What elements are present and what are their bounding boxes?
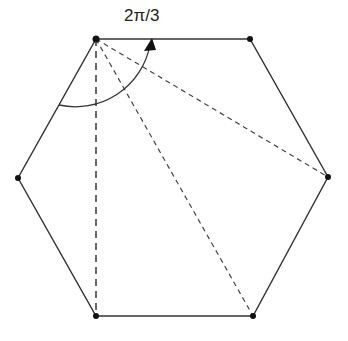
hexagon-diagram: 2π/3 [0, 0, 348, 341]
diagonal-to-right [96, 39, 328, 177]
vertex-dot [93, 313, 99, 319]
vertex-dot [15, 175, 21, 181]
angle-arc [59, 45, 150, 107]
hexagon-figure [0, 0, 348, 341]
vertex-dot [247, 36, 253, 42]
angle-label: 2π/3 [124, 6, 159, 26]
vertex-dot [250, 313, 256, 319]
arrowhead-icon [144, 38, 156, 51]
hexagon-outline [18, 39, 328, 316]
vertex-dot [93, 36, 100, 43]
diagonal-to-bottom-right [96, 39, 253, 316]
vertex-dot [325, 174, 331, 180]
